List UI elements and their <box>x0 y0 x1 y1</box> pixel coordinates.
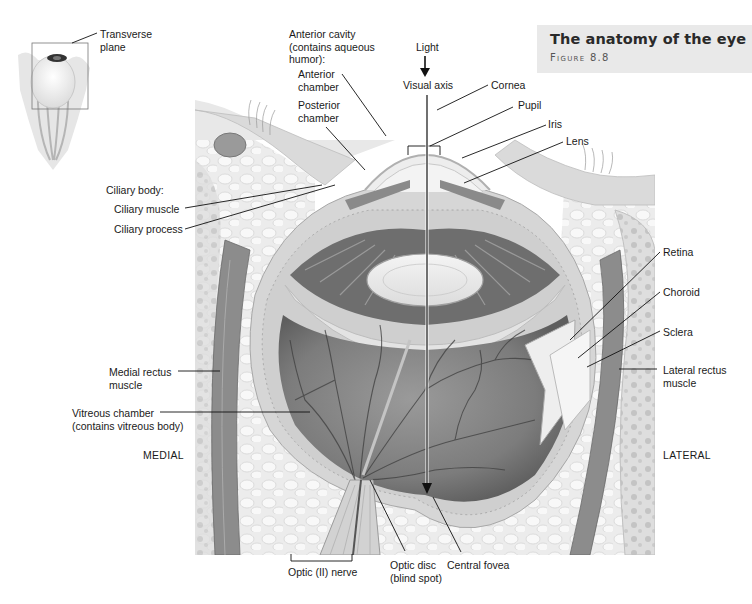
transverse-plane-label: Transverse plane <box>100 28 152 53</box>
label-line: Anterior <box>298 68 339 81</box>
label-line: Medial rectus <box>109 366 171 379</box>
label-line: muscle <box>663 377 727 390</box>
label-line: plane <box>100 41 152 54</box>
ciliary-body-label: Ciliary body: <box>106 184 164 197</box>
label-line: chamber <box>298 112 340 125</box>
sclera-label: Sclera <box>663 326 693 339</box>
lateral-rectus-muscle-label: Lateral rectus muscle <box>663 364 727 389</box>
vitreous-chamber-label: Vitreous chamber (contains vitreous body… <box>72 407 183 432</box>
figure-title: The anatomy of the eye <box>550 31 746 47</box>
label-line: Optic disc <box>390 559 442 572</box>
ciliary-process-label: Ciliary process <box>114 223 183 236</box>
label-line: humor): <box>289 53 375 66</box>
cornea-label: Cornea <box>491 79 525 92</box>
label-line: (blind spot) <box>390 572 442 585</box>
lens-label: Lens <box>566 135 589 148</box>
label-line: (contains aqueous <box>289 41 375 54</box>
transverse-plane-inset <box>8 20 98 170</box>
ciliary-muscle-label: Ciliary muscle <box>114 203 179 216</box>
figure-title-box: The anatomy of the eye Figure 8.8 <box>537 25 752 73</box>
label-line: Transverse <box>100 28 152 41</box>
optic-disc-label: Optic disc (blind spot) <box>390 559 442 584</box>
label-line: Lateral rectus <box>663 364 727 377</box>
medial-direction-label: MEDIAL <box>143 449 184 462</box>
anterior-chamber-label: Anterior chamber <box>298 68 339 93</box>
iris-label: Iris <box>548 118 562 131</box>
choroid-label: Choroid <box>663 286 700 299</box>
label-line: muscle <box>109 379 171 392</box>
label-line: Vitreous chamber <box>72 407 183 420</box>
visual-axis-label: Visual axis <box>403 79 453 92</box>
light-label: Light <box>416 41 439 54</box>
pupil-label: Pupil <box>518 99 541 112</box>
label-line: chamber <box>298 81 339 94</box>
posterior-chamber-label: Posterior chamber <box>298 99 340 124</box>
label-line: Anterior cavity <box>289 28 375 41</box>
anterior-cavity-label: Anterior cavity (contains aqueous humor)… <box>289 28 375 66</box>
central-fovea-label: Central fovea <box>447 559 509 572</box>
figure-number: Figure 8.8 <box>550 52 610 63</box>
label-line: (contains vitreous body) <box>72 420 183 433</box>
eye-cross-section-illustration <box>195 100 655 555</box>
label-line: Posterior <box>298 99 340 112</box>
optic-nerve-label: Optic (II) nerve <box>288 566 357 579</box>
retina-label: Retina <box>663 246 693 259</box>
medial-rectus-muscle-label: Medial rectus muscle <box>109 366 171 391</box>
lateral-direction-label: LATERAL <box>663 449 711 462</box>
